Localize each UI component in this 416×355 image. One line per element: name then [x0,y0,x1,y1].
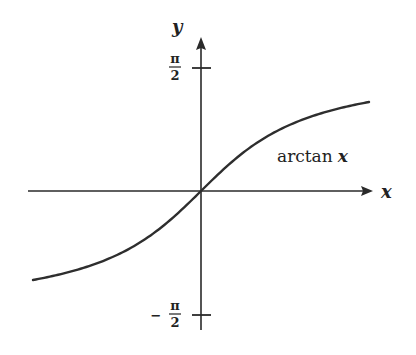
tick-denominator: 2 [170,315,179,330]
y-axis-label: y [171,16,184,37]
arctan-plot: y x π 2 − π 2 arctanx [0,0,416,355]
tick-numerator: π [170,51,180,66]
tick-label-neg-pi-over-2: − π 2 [151,298,181,330]
function-variable: x [337,146,349,166]
tick-sign: − [151,308,162,323]
tick-numerator: π [170,298,180,313]
tick-denominator: 2 [170,68,179,83]
function-label: arctanx [277,146,349,166]
function-name: arctan [277,146,333,166]
tick-label-pi-over-2: π 2 [169,51,181,83]
x-axis-label: x [380,181,392,202]
